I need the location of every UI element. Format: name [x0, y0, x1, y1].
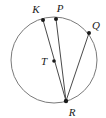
point-label-p: P: [56, 2, 64, 14]
point-r-dot: [64, 99, 68, 103]
circle-geometry-diagram: K P Q T R: [0, 0, 106, 118]
chord-qr: [66, 33, 89, 101]
point-label-k: K: [31, 3, 40, 15]
point-k-dot: [41, 18, 45, 22]
point-t-dot: [52, 59, 56, 63]
point-label-r: R: [68, 106, 76, 118]
chord-pr: [56, 19, 66, 101]
point-label-t: T: [41, 55, 48, 67]
point-p-dot: [54, 17, 58, 21]
point-q-dot: [87, 31, 91, 35]
point-label-q: Q: [92, 19, 100, 31]
